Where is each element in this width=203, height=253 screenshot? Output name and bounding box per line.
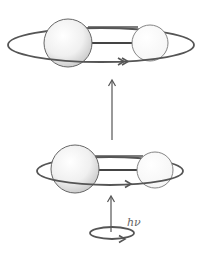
photon-label: hν <box>127 216 141 229</box>
photon: hν <box>90 196 141 243</box>
transition-arrow-icon <box>109 80 116 140</box>
initial-molecule <box>37 145 183 193</box>
large-atom <box>51 145 99 193</box>
excited-molecule <box>8 19 194 67</box>
small-atom <box>132 25 168 61</box>
rotational-excitation-diagram: hν <box>0 0 203 253</box>
